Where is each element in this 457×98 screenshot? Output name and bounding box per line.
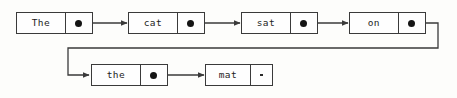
null-pointer-icon — [260, 74, 263, 77]
pointer-dot-icon — [187, 20, 194, 27]
pointer-dot-icon — [408, 20, 415, 27]
list-node-mat[interactable]: mat — [205, 64, 273, 86]
node-value-cell: the — [92, 65, 141, 85]
node-pointer-cell — [141, 65, 167, 85]
node-pointer-cell — [291, 13, 317, 33]
pointer-dot-icon — [75, 20, 82, 27]
node-pointer-cell — [178, 13, 204, 33]
pointer-dot-icon — [150, 72, 157, 79]
linked-list-diagram: The cat sat on the mat — [0, 0, 457, 98]
node-value-cell: sat — [242, 13, 291, 33]
list-node-cat[interactable]: cat — [128, 12, 205, 34]
node-value-cell: mat — [206, 65, 251, 85]
node-null-pointer-cell — [251, 65, 272, 85]
node-pointer-cell — [66, 13, 92, 33]
pointer-dot-icon — [300, 20, 307, 27]
node-value-cell: cat — [129, 13, 178, 33]
list-node-the-first[interactable]: The — [16, 12, 93, 34]
node-value-cell: The — [17, 13, 66, 33]
node-value-cell: on — [350, 13, 399, 33]
list-node-the-second[interactable]: the — [91, 64, 168, 86]
list-node-sat[interactable]: sat — [241, 12, 318, 34]
node-pointer-cell — [399, 13, 425, 33]
list-node-on[interactable]: on — [349, 12, 426, 34]
